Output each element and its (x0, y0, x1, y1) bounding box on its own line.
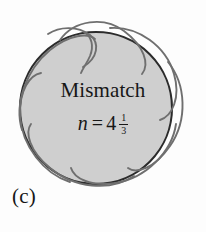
equation-fraction: 13 (119, 113, 128, 136)
fraction-numerator: 1 (120, 113, 127, 124)
equation-whole-number: 4 (106, 112, 119, 134)
equation-operator: = (89, 112, 106, 134)
fraction-denominator: 3 (120, 125, 127, 136)
figure-caption-label: (c) (12, 186, 36, 207)
figure-panel-c: Mismatch n=413 (c) (0, 0, 206, 232)
order-equation: n=413 (0, 112, 206, 137)
figure-title: Mismatch (0, 79, 206, 102)
equation-variable: n (78, 112, 89, 134)
